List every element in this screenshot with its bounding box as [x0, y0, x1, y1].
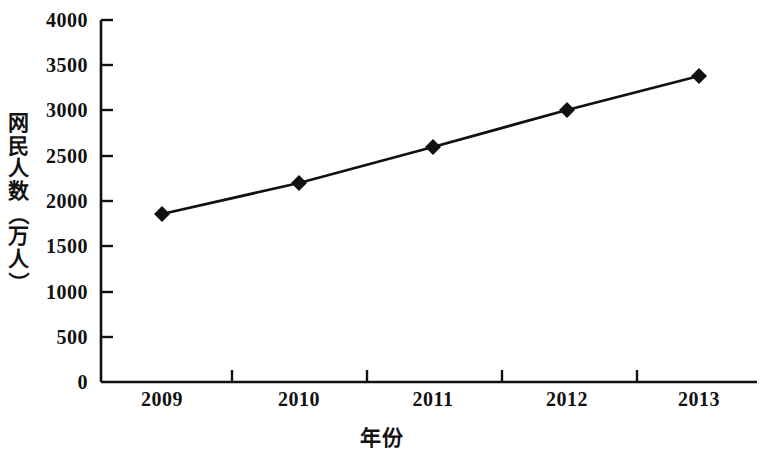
y-axis-title-char: 人: [4, 248, 32, 271]
y-axis-title: 网 民 人 数 （ 万 人 ）: [4, 112, 32, 293]
y-axis-title-char: （: [7, 200, 30, 228]
data-point-2013: [691, 68, 707, 84]
y-axis-title-char: 人: [4, 157, 32, 180]
data-point-2011: [425, 139, 441, 155]
x-tick-2012: 2012: [512, 389, 622, 415]
data-point-2010: [291, 175, 307, 191]
y-axis-title-char: 民: [4, 135, 32, 158]
x-tick-2009: 2009: [107, 389, 217, 415]
y-axis-title-char: 网: [4, 112, 32, 135]
x-tick-2011: 2011: [378, 389, 488, 415]
data-point-markers: [154, 68, 707, 222]
data-point-2012: [559, 102, 575, 118]
line-chart-plot: [0, 0, 764, 452]
chart-container: 4000 3500 3000 2500 2000 1500 1000 500 0…: [0, 0, 764, 452]
x-axis-ticks: [232, 370, 637, 382]
y-axis-title-char: 数: [4, 180, 32, 203]
data-point-2009: [154, 206, 170, 222]
x-tick-2010: 2010: [244, 389, 354, 415]
y-axis-title-char: 万: [4, 225, 32, 248]
y-axis-ticks: [101, 20, 113, 337]
x-tick-2013: 2013: [644, 389, 754, 415]
x-axis-title: 年份: [0, 421, 764, 451]
y-axis-title-char: ）: [7, 268, 30, 296]
